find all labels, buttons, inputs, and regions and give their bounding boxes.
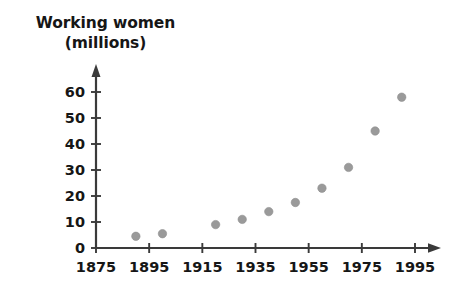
- y-tick-label: 10: [65, 214, 85, 230]
- y-tick-label: 20: [65, 188, 85, 204]
- x-tick-label: 1875: [76, 259, 116, 275]
- data-point: 1920: 9: [211, 220, 219, 228]
- y-tick-label: 40: [65, 136, 85, 152]
- y-axis-arrowhead: [92, 64, 101, 77]
- data-point: 1990: 58: [398, 93, 406, 101]
- data-point: 1930: 11: [238, 215, 246, 223]
- x-tick-label: 1975: [342, 259, 382, 275]
- x-tick-label: 1895: [129, 259, 169, 275]
- data-point: 1960: 23: [318, 184, 326, 192]
- x-tick-label: 1955: [288, 259, 328, 275]
- x-tick-label: 1935: [235, 259, 275, 275]
- data-point: 1980: 45: [371, 127, 379, 135]
- y-tick-label: 0: [75, 240, 85, 256]
- y-tick-label: 60: [65, 84, 85, 100]
- data-points-group: 1890: 4.51900: 5.51920: 91930: 111940: 1…: [132, 93, 406, 241]
- axes-group: [92, 64, 442, 253]
- chart-figure: Working women (millions) 0102030405060 1…: [0, 0, 461, 293]
- data-point: 1900: 5.5: [158, 230, 166, 238]
- x-tick-label: 1915: [182, 259, 222, 275]
- scatter-plot-canvas: 0102030405060 18751895191519351955197519…: [0, 0, 461, 293]
- y-tick-label: 50: [65, 110, 85, 126]
- data-point: 1890: 4.5: [132, 232, 140, 240]
- y-tick-label: 30: [65, 162, 85, 178]
- x-tick-label: 1995: [395, 259, 435, 275]
- data-point: 1950: 17.5: [291, 198, 299, 206]
- x-axis-arrowhead: [428, 243, 441, 253]
- data-point: 1940: 14: [265, 207, 273, 215]
- data-point: 1970: 31: [344, 163, 352, 171]
